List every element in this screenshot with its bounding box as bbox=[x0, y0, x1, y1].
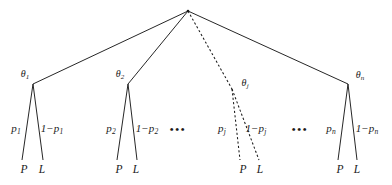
subtree-2-theta-label: θ2 bbox=[116, 69, 125, 81]
subtree-2-leaf-p: P bbox=[115, 164, 122, 176]
root-node-dot bbox=[187, 10, 190, 13]
subtree-j-leaf-l: L bbox=[257, 164, 263, 176]
subtree-j-leaf-p: P bbox=[239, 164, 246, 176]
subtree-2-right-probability-label: 1−p2 bbox=[136, 123, 158, 135]
subtree-n-root-edge bbox=[188, 11, 348, 84]
subtree-2-root-edge bbox=[128, 11, 188, 84]
subtree-n-left-edge bbox=[338, 84, 348, 160]
probability-tree-figure: θ1p11−p1PLθ2p21−p2PLθjpj1−pjPLθnpn1−pnPL… bbox=[0, 0, 392, 185]
root-node-group bbox=[187, 10, 190, 13]
subtree-1-leaf-l: L bbox=[39, 164, 45, 176]
subtree-1-left-edge bbox=[22, 84, 33, 160]
subtree-1-right-probability-label: 1−p1 bbox=[41, 123, 63, 135]
subtree-j-right-probability-label: 1−pj bbox=[246, 123, 267, 135]
subtree-n-leaf-l: L bbox=[354, 164, 360, 176]
tree-edge-group bbox=[22, 11, 357, 160]
subtree-n-theta-label: θn bbox=[356, 70, 365, 82]
ellipsis-1: ••• bbox=[170, 124, 186, 135]
subtree-n-left-probability-label: pn bbox=[326, 123, 336, 135]
subtree-2-left-probability-label: p2 bbox=[106, 123, 116, 135]
subtree-2-left-edge bbox=[117, 84, 128, 160]
tree-lines bbox=[0, 0, 392, 185]
subtree-j-left-edge bbox=[232, 89, 240, 160]
subtree-j-root-edge bbox=[188, 11, 232, 89]
subtree-n-leaf-p: P bbox=[336, 164, 343, 176]
subtree-2-leaf-l: L bbox=[133, 164, 139, 176]
subtree-1-root-edge bbox=[33, 11, 188, 84]
subtree-1-left-probability-label: p1 bbox=[11, 123, 21, 135]
ellipsis-2: ••• bbox=[292, 124, 308, 135]
subtree-1-theta-label: θ1 bbox=[21, 69, 30, 81]
subtree-1-leaf-p: P bbox=[20, 164, 27, 176]
subtree-j-theta-label: θj bbox=[241, 78, 248, 90]
subtree-j-left-probability-label: pj bbox=[218, 123, 226, 135]
subtree-n-right-probability-label: 1−pn bbox=[356, 123, 378, 135]
